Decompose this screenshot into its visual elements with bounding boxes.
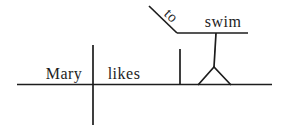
pedestal-stem bbox=[214, 33, 216, 67]
verb-label: likes bbox=[108, 66, 141, 82]
pedestal-triangle bbox=[198, 67, 231, 85]
subject-label: Mary bbox=[46, 66, 83, 82]
sentence-diagram: Mary likes to swim bbox=[0, 0, 283, 128]
infinitive-verb-label: swim bbox=[205, 14, 242, 30]
